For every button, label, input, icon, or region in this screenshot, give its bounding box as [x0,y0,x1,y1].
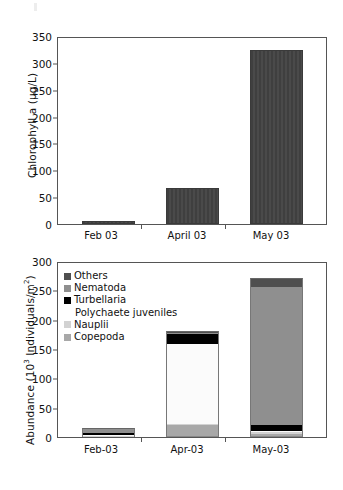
legend-item-nauplii[interactable]: Nauplii [64,319,177,331]
segment-nematoda [166,333,219,334]
legend-swatch-turbellaria [64,297,71,304]
bar-feb-03 [82,221,135,224]
segment-copepoda [250,434,303,438]
y-tick-label: 100 [26,373,52,385]
legend-label-nematoda: Nematoda [74,283,126,293]
segment-turbellaria [166,333,219,344]
stacked-bar-apr-03 [166,331,219,437]
plot-area-abundance: Others Nematoda Turbellaria Polychaete j… [57,262,327,438]
segment-copepoda [166,424,219,437]
y-tick-label: 300 [28,58,52,70]
segment-turbellaria [250,425,303,430]
legend-item-turbellaria[interactable]: Turbellaria [64,294,177,306]
y-tick-label: 350 [28,31,52,43]
legend-label-others: Others [74,271,108,281]
legend-item-nematoda[interactable]: Nematoda [64,282,177,294]
stacked-bar-may-03 [250,278,303,437]
legend-item-copepoda[interactable]: Copepoda [64,331,177,343]
segment-polychaete-juveniles [82,435,135,436]
x-tick-label-feb: Feb-03 [54,444,148,455]
x-tick-mark [225,438,226,442]
legend-abundance: Others Nematoda Turbellaria Polychaete j… [64,270,177,343]
segment-turbellaria [82,433,135,435]
chart-panel-chlorophyll: Chlorophyll a (µg/L) 350 300 250 200 150… [0,0,343,245]
legend-label-polychaete-juveniles: Polychaete juveniles [74,308,177,318]
segment-polychaete-juveniles [166,344,219,424]
segment-nematoda [82,429,135,433]
legend-item-polychaete-juveniles[interactable]: Polychaete juveniles [64,307,177,319]
y-tick-label: 200 [28,112,52,124]
figure-root: Chlorophyll a (µg/L) 350 300 250 200 150… [0,0,343,490]
stacked-bar-feb-03 [82,428,135,437]
y-tick-label: 50 [26,403,52,415]
x-tick-label-april: April 03 [140,230,234,241]
y-axis-label-exp2: 2 [23,280,31,285]
segment-others [166,331,219,333]
y-tick-label: 50 [28,192,52,204]
y-axis-label-exp: 3 [23,359,31,364]
x-tick-label-may: May 03 [224,230,318,241]
legend-label-copepoda: Copepoda [74,332,125,342]
y-tick-label: 100 [28,165,52,177]
segment-others [82,428,135,430]
y-axis-label-abundance: Abundance (103 Individuals/m2) [23,275,36,445]
segment-copepoda [82,436,135,437]
bar-may-03 [250,50,303,224]
bar-april-03 [166,188,219,225]
y-tick-label: 250 [26,285,52,297]
segment-nauplii [82,436,135,437]
y-tick-label: 200 [26,315,52,327]
segment-others [250,278,303,287]
x-tick-label-may: May-03 [224,444,318,455]
y-tick-label: 250 [28,85,52,97]
legend-item-others[interactable]: Others [64,270,177,282]
x-tick-mark [225,225,226,229]
legend-swatch-nematoda [64,285,71,292]
segment-polychaete-juveniles [250,431,303,433]
legend-swatch-others [64,273,71,280]
chart-panel-abundance: Abundance (103 Individuals/m2) 300 250 2… [0,245,343,490]
segment-nematoda [250,287,303,425]
legend-swatch-nauplii [64,321,71,328]
legend-swatch-copepoda [64,334,71,341]
y-tick-label: 0 [26,432,52,444]
legend-swatch-polychaete-juveniles [64,309,71,316]
x-tick-mark [141,438,142,442]
y-axis-label-text3: ) [24,275,36,279]
x-tick-mark [141,225,142,229]
y-tick-label: 300 [26,256,52,268]
x-tick-label-feb: Feb 03 [54,230,148,241]
legend-label-nauplii: Nauplii [74,320,109,330]
y-tick-label: 0 [28,219,52,231]
legend-label-turbellaria: Turbellaria [74,295,126,305]
y-tick-label: 150 [26,344,52,356]
segment-nauplii [250,432,303,433]
plot-area-chlorophyll [57,37,327,225]
x-tick-label-apr: Apr-03 [140,444,234,455]
y-tick-label: 150 [28,138,52,150]
